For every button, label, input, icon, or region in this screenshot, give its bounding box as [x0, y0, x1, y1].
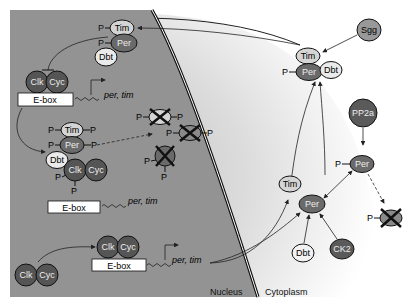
svg-text:P: P — [55, 172, 61, 182]
sgg-protein: Sgg — [357, 19, 381, 41]
svg-text:P: P — [71, 186, 77, 196]
svg-text:Clk: Clk — [20, 270, 33, 280]
svg-text:P: P — [207, 128, 213, 138]
svg-text:Per: Per — [305, 199, 319, 209]
svg-text:per, tim: per, tim — [103, 90, 134, 100]
cytoplasmic-tim: Tim — [279, 176, 301, 192]
svg-text:Clk: Clk — [102, 242, 115, 252]
svg-text:P: P — [177, 112, 183, 122]
svg-text:Cyc: Cyc — [39, 270, 55, 280]
svg-text:Per: Per — [355, 159, 369, 169]
svg-text:Tim: Tim — [301, 51, 316, 61]
svg-text:Cyc: Cyc — [49, 77, 65, 87]
svg-text:Dbt: Dbt — [99, 52, 114, 62]
svg-text:E-box: E-box — [107, 261, 131, 271]
svg-text:P: P — [91, 140, 97, 150]
svg-text:Sgg: Sgg — [361, 25, 377, 35]
dbt-kinase: Dbt — [292, 244, 314, 262]
svg-text:P: P — [98, 23, 104, 33]
svg-text:P: P — [367, 213, 373, 223]
svg-text:Dbt: Dbt — [296, 248, 311, 258]
svg-text:P: P — [90, 125, 96, 135]
svg-text:P: P — [282, 67, 288, 77]
pp2a-protein: PP2a — [349, 99, 377, 127]
svg-text:Cyc: Cyc — [120, 242, 136, 252]
ck2-kinase: CK2 — [330, 239, 354, 259]
svg-text:P: P — [161, 172, 167, 182]
svg-text:CK2: CK2 — [333, 244, 351, 254]
svg-text:P: P — [144, 156, 150, 166]
svg-text:P: P — [166, 128, 172, 138]
svg-text:P: P — [335, 159, 341, 169]
svg-text:E-box: E-box — [33, 95, 57, 105]
svg-text:Per: Per — [302, 67, 316, 77]
svg-text:Tim: Tim — [65, 125, 80, 135]
cytoplasm-label: Cytoplasm — [265, 287, 308, 297]
svg-text:Per: Per — [65, 140, 79, 150]
svg-text:PP2a: PP2a — [352, 108, 374, 118]
svg-text:Dbt: Dbt — [50, 155, 65, 165]
svg-text:per, tim: per, tim — [171, 255, 202, 265]
svg-text:Cyc: Cyc — [88, 165, 104, 175]
nucleus-label: Nucleus — [210, 287, 243, 297]
svg-text:Per: Per — [117, 38, 131, 48]
svg-text:Tim: Tim — [283, 179, 298, 189]
svg-text:Clk: Clk — [31, 77, 44, 87]
svg-text:P: P — [48, 140, 54, 150]
svg-text:Dbt: Dbt — [324, 65, 339, 75]
circadian-clock-diagram: Nucleus Cytoplasm P Tim P Per Dbt Clk Cy… — [0, 0, 411, 307]
svg-text:Clk: Clk — [69, 165, 82, 175]
cytoplasmic-per: Per — [299, 195, 325, 213]
svg-text:E-box: E-box — [62, 203, 86, 213]
svg-text:per, tim: per, tim — [127, 196, 158, 206]
svg-text:P: P — [136, 112, 142, 122]
svg-text:P: P — [48, 125, 54, 135]
svg-text:Tim: Tim — [115, 23, 130, 33]
svg-text:P: P — [98, 38, 104, 48]
